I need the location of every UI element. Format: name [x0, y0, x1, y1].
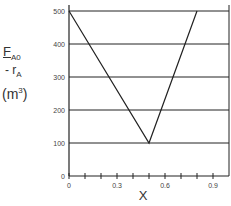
y-numerator-subscript: A0 [11, 53, 21, 62]
y-tick-label: 100 [53, 140, 65, 147]
y-numerator-base: F [3, 44, 11, 59]
y-denominator-subscript: A [16, 70, 21, 79]
y-axis-title-numerator: FA0 [3, 44, 21, 62]
y-denominator-base: - r [5, 63, 16, 77]
y-tick-labels: 0100200300400500 [53, 8, 65, 180]
y-tick-label: 400 [53, 41, 65, 48]
x-tick-label: 0.6 [160, 182, 170, 189]
grid-lines [69, 11, 229, 143]
x-tick-label: 0.3 [112, 182, 122, 189]
x-tick-label: 0.9 [208, 182, 218, 189]
x-tick-label: 0 [67, 182, 71, 189]
y-axis-title-denominator: - rA [5, 63, 22, 79]
chart: 0100200300400500 00.30.60.9 X [0, 0, 231, 206]
x-axis-title: X [139, 188, 148, 203]
y-tick-label: 300 [53, 74, 65, 81]
y-tick-label: 200 [53, 107, 65, 114]
y-tick-label: 0 [61, 173, 65, 180]
y-tick-label: 500 [53, 8, 65, 15]
y-unit-base: m [7, 86, 19, 102]
y-unit-exponent: 3 [18, 86, 22, 95]
y-axis-unit: (m3) [2, 86, 27, 102]
axes [69, 5, 229, 176]
